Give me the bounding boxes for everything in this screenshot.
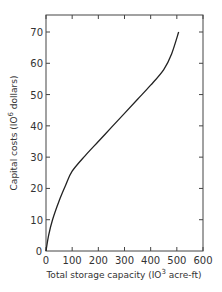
y-tick-label: 0 bbox=[36, 246, 42, 257]
plot-frame bbox=[46, 15, 203, 251]
cost-curve-line bbox=[46, 32, 179, 251]
x-axis-ticks: 0100200300400500600 bbox=[43, 15, 213, 266]
x-tick-label: 300 bbox=[115, 255, 134, 266]
x-axis-label: Total storage capacity (IO3 acre-ft) bbox=[45, 268, 201, 280]
x-tick-label: 600 bbox=[193, 255, 212, 266]
x-tick-label: 200 bbox=[89, 255, 108, 266]
y-tick-label: 70 bbox=[30, 27, 43, 38]
x-tick-label: 400 bbox=[141, 255, 160, 266]
y-axis-label: Capital costs (IO6 dollars) bbox=[7, 76, 19, 191]
y-tick-label: 10 bbox=[30, 215, 43, 226]
y-tick-label: 50 bbox=[30, 90, 43, 101]
y-tick-label: 40 bbox=[30, 121, 43, 132]
x-tick-label: 500 bbox=[167, 255, 186, 266]
y-tick-label: 30 bbox=[30, 152, 43, 163]
capital-cost-chart: 0100200300400500600 010203040506070 Tota… bbox=[0, 0, 222, 292]
y-tick-label: 60 bbox=[30, 58, 43, 69]
x-tick-label: 100 bbox=[63, 255, 82, 266]
x-tick-label: 0 bbox=[43, 255, 49, 266]
y-axis-ticks: 010203040506070 bbox=[30, 27, 203, 257]
y-tick-label: 20 bbox=[30, 183, 43, 194]
